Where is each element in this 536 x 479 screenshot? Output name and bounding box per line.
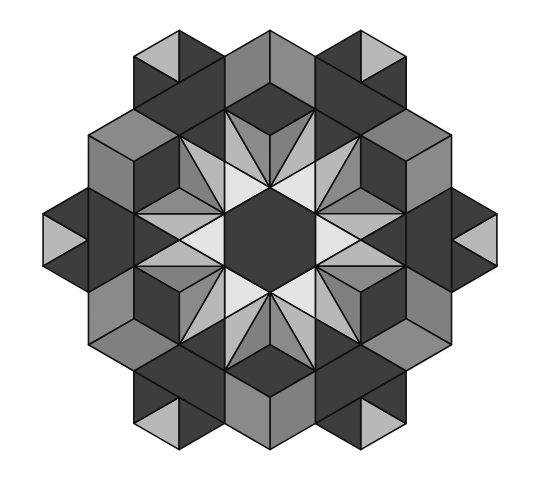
tessellation-svg [0, 0, 536, 479]
tessellation-figure [0, 0, 536, 479]
